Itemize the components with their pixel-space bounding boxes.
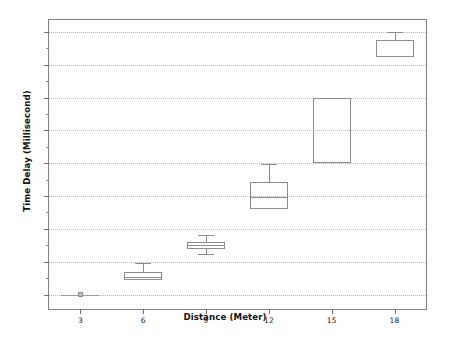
box-plot-upper-whisker (143, 263, 144, 272)
y-axis-tick (44, 196, 49, 197)
y-axis-tick (44, 65, 49, 66)
gridline-horizontal (49, 262, 426, 263)
y-axis-minor-tick (46, 114, 49, 115)
gridline-horizontal (49, 295, 426, 296)
plot-area (49, 20, 426, 309)
gridline-horizontal (49, 98, 426, 99)
y-axis-tick (44, 163, 49, 164)
y-axis-title: Time Delay (Millisecond) (22, 1, 32, 301)
box-plot-upper-whisker (269, 164, 270, 182)
y-axis-tick (44, 130, 49, 131)
y-axis-minor-tick (46, 278, 49, 279)
box-plot-lower-whisker-cap (198, 254, 214, 255)
y-axis-tick (44, 262, 49, 263)
gridline-horizontal (49, 130, 426, 131)
box-plot-box (313, 98, 351, 163)
x-axis-title: Distance (Meter) (0, 312, 450, 322)
y-axis-minor-tick (46, 147, 49, 148)
box-plot-upper-whisker-cap (198, 235, 214, 236)
box-plot-median (250, 197, 288, 198)
y-axis-tick (44, 32, 49, 33)
y-axis-minor-tick (46, 212, 49, 213)
plot-frame: 100150200250300350400450500369121518 (48, 19, 427, 310)
y-axis-tick (44, 229, 49, 230)
box-plot-median (187, 245, 225, 246)
gridline-horizontal (49, 196, 426, 197)
gridline-horizontal (49, 163, 426, 164)
box-plot-median (124, 277, 162, 278)
gridline-horizontal (49, 32, 426, 33)
y-axis-tick (44, 295, 49, 296)
box-plot-figure: 100150200250300350400450500369121518 Dis… (0, 0, 450, 344)
box-plot-degenerate-marker (78, 292, 83, 297)
box-plot-upper-whisker-cap (135, 263, 151, 264)
y-axis-minor-tick (46, 180, 49, 181)
y-axis-minor-tick (46, 81, 49, 82)
box-plot-upper-whisker-cap (261, 164, 277, 165)
box-plot-box (250, 182, 288, 210)
y-axis-minor-tick (46, 48, 49, 49)
box-plot-box (376, 40, 414, 56)
box-plot-upper-whisker (395, 32, 396, 40)
y-axis-minor-tick (46, 245, 49, 246)
y-axis-tick (44, 98, 49, 99)
gridline-horizontal (49, 229, 426, 230)
gridline-horizontal (49, 65, 426, 66)
box-plot-box (124, 272, 162, 280)
box-plot-upper-whisker-cap (387, 32, 403, 33)
